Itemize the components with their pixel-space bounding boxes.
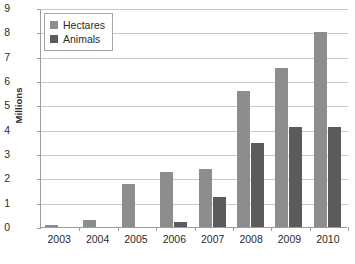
legend-swatch-animals-icon	[50, 35, 58, 43]
bar-hectares-2003	[45, 225, 58, 227]
bar-group	[195, 9, 233, 227]
x-tick-mark	[156, 227, 157, 231]
y-tick-label: 7	[0, 51, 10, 63]
x-tick-mark	[271, 227, 272, 231]
x-tick-mark	[310, 227, 311, 231]
y-tick-label: 3	[0, 148, 10, 160]
bar-animals-2010	[328, 127, 341, 227]
legend-item-animals: Animals	[50, 32, 105, 46]
bar-animals-2009	[289, 127, 302, 227]
bar-hectares-2006	[160, 172, 173, 227]
x-tick-mark	[195, 227, 196, 231]
bar-group	[156, 9, 194, 227]
x-tick-label: 2010	[305, 233, 351, 245]
y-tick-label: 6	[0, 75, 10, 87]
x-tick-mark	[118, 227, 119, 231]
bar-hectares-2004	[83, 220, 96, 227]
bar-animals-2008	[251, 143, 264, 227]
legend-swatch-hectares-icon	[50, 21, 58, 29]
bar-animals-2007	[213, 197, 226, 227]
bar-chart: Millions 0123456789 20032004200520062007…	[0, 0, 355, 264]
chart-legend: Hectares Animals	[44, 13, 113, 51]
y-axis-title: Millions	[13, 66, 24, 146]
bar-hectares-2007	[199, 169, 212, 227]
y-tick-label: 8	[0, 26, 10, 38]
bar-group	[310, 9, 348, 227]
bar-hectares-2008	[237, 91, 250, 227]
bar-group	[118, 9, 156, 227]
y-tick-label: 5	[0, 99, 10, 111]
bar-group	[233, 9, 271, 227]
bar-hectares-2005	[122, 184, 135, 227]
x-tick-mark	[79, 227, 80, 231]
y-tick-label: 1	[0, 197, 10, 209]
bar-animals-2006	[174, 222, 187, 227]
y-tick-label: 2	[0, 172, 10, 184]
y-tick-label: 4	[0, 124, 10, 136]
legend-item-hectares: Hectares	[50, 18, 105, 32]
legend-label-hectares: Hectares	[63, 19, 105, 31]
y-tick-label: 9	[0, 2, 10, 14]
bar-hectares-2009	[275, 68, 288, 227]
y-tick-mark	[37, 228, 41, 229]
bar-group	[271, 9, 309, 227]
x-tick-mark	[348, 227, 349, 231]
legend-label-animals: Animals	[63, 33, 100, 45]
bar-hectares-2010	[314, 32, 327, 227]
x-tick-mark	[233, 227, 234, 231]
y-tick-label: 0	[0, 221, 10, 233]
x-axis-labels: 20032004200520062007200820092010	[40, 233, 347, 253]
